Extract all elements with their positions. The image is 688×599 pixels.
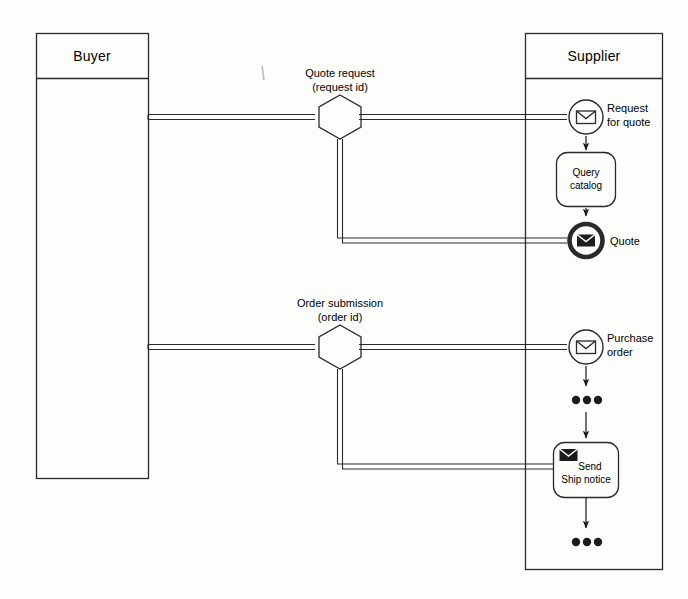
envelope-filled-icon — [577, 235, 595, 247]
hexagon-shape — [319, 95, 361, 139]
label-query-catalog-line1: Query — [572, 167, 599, 178]
message-node-order-submission[interactable] — [319, 325, 361, 369]
ellipsis-upper — [572, 396, 602, 404]
label-request-for-quote-line2: for quote — [607, 116, 650, 128]
envelope-icon — [577, 111, 596, 124]
event-circle — [569, 100, 603, 134]
bpmn-diagram: Buyer Supplier Quote request (request id… — [0, 0, 688, 599]
message-flow-order-submission[interactable] — [148, 345, 567, 470]
event-quote[interactable] — [570, 224, 603, 257]
envelope-filled-icon — [560, 449, 578, 461]
envelope-icon — [577, 341, 596, 354]
pool-buyer[interactable] — [37, 34, 149, 479]
event-request-for-quote[interactable] — [569, 100, 603, 134]
scan-artifact-mark — [262, 66, 264, 80]
label-request-for-quote-line1: Request — [607, 102, 648, 114]
label-query-catalog-line2: catalog — [570, 180, 602, 191]
hexagon-shape — [319, 325, 361, 369]
flow-label-quote-request-line1: Quote request — [305, 67, 375, 79]
pool-buyer-title: Buyer — [73, 48, 111, 64]
flow-label-order-submission-line1: Order submission — [297, 297, 383, 309]
label-send-ship-notice-line2: Ship notice — [561, 474, 611, 485]
pool-buyer-body — [37, 34, 149, 479]
event-purchase-order[interactable] — [569, 330, 603, 364]
diagram-canvas: Buyer Supplier Quote request (request id… — [0, 0, 688, 599]
event-circle — [569, 330, 603, 364]
label-quote: Quote — [610, 235, 640, 247]
message-node-quote-request[interactable] — [319, 95, 361, 139]
label-purchase-order-line1: Purchase — [607, 332, 653, 344]
label-purchase-order-line2: order — [607, 346, 633, 358]
flow-label-order-submission-line2: (order id) — [318, 311, 363, 323]
message-flow-quote-request[interactable] — [148, 115, 567, 244]
label-send-ship-notice-line1: Send — [578, 461, 601, 472]
ellipsis-lower — [572, 538, 602, 546]
flow-label-quote-request-line2: (request id) — [312, 81, 368, 93]
pool-supplier-title: Supplier — [568, 48, 621, 64]
